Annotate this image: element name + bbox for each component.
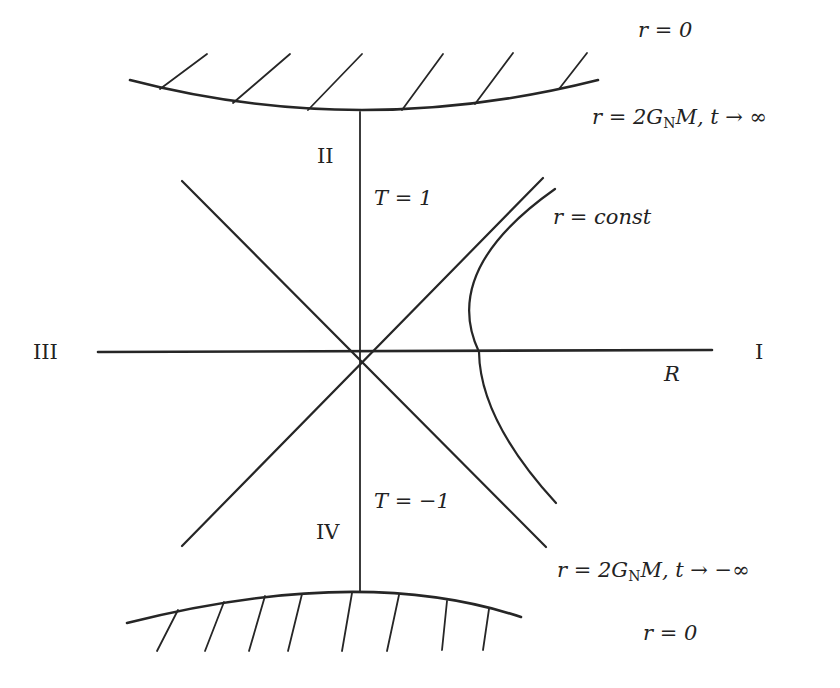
hatch-mark	[342, 593, 352, 651]
past-horizon-post: M, t → −∞	[640, 558, 749, 582]
hatch-mark	[233, 54, 290, 103]
hatch-mark	[249, 596, 265, 651]
label-past-horizon: r = 2GNM, t → −∞	[557, 560, 750, 583]
top-singularity-hatching	[160, 53, 587, 110]
past-horizon-subscript: N	[628, 568, 640, 584]
region-III-label: III	[33, 342, 58, 363]
r-const-hyperbola	[469, 189, 556, 503]
horizon-diagonal-descending	[182, 181, 546, 547]
label-future-horizon: r = 2GNM, t → ∞	[592, 107, 767, 130]
hatch-mark	[205, 602, 224, 651]
r-axis-line	[98, 350, 712, 352]
bottom-singularity-curve	[127, 592, 521, 623]
region-II-label: II	[317, 146, 334, 167]
kruskal-diagram-canvas	[0, 0, 840, 688]
hatch-mark	[387, 595, 399, 651]
hatch-mark	[483, 609, 489, 650]
hatch-mark	[160, 54, 207, 89]
future-horizon-subscript: N	[663, 115, 675, 131]
region-IV-label: IV	[316, 522, 339, 543]
future-horizon-pre: r = 2G	[592, 105, 663, 129]
region-I-label: I	[755, 342, 763, 363]
label-bottom-singularity: r = 0	[643, 623, 697, 644]
hatch-mark	[308, 54, 362, 110]
bottom-singularity-hatching	[157, 593, 489, 651]
hatch-mark	[442, 601, 447, 650]
past-horizon-pre: r = 2G	[557, 558, 628, 582]
hatch-mark	[475, 53, 513, 104]
label-T-equals-1: T = 1	[374, 188, 432, 209]
hatch-mark	[402, 54, 443, 110]
label-top-singularity: r = 0	[638, 20, 692, 41]
label-T-equals-minus-1: T = −1	[374, 491, 450, 512]
label-r-const: r = const	[553, 207, 651, 228]
top-singularity-curve	[130, 80, 598, 110]
label-R-axis: R	[664, 364, 680, 385]
future-horizon-post: M, t → ∞	[675, 105, 767, 129]
hatch-mark	[288, 594, 302, 651]
